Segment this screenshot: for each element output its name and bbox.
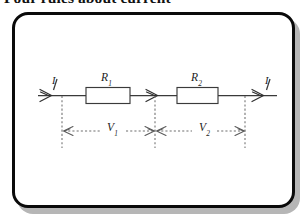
voltage-v2-label: V2 — [196, 122, 213, 136]
resistor-r1-symbol: R — [101, 71, 108, 83]
voltage-v2-symbol: V — [199, 121, 206, 133]
voltage-v1-label: V1 — [104, 122, 121, 136]
series-circuit-diagram — [0, 0, 306, 218]
resistor-r1-body — [86, 88, 130, 104]
resistor-r2-subscript: 2 — [198, 79, 202, 88]
resistor-r1-label: R1 — [101, 72, 112, 86]
current-label-right: I — [265, 76, 269, 87]
resistor-r2-label: R2 — [191, 72, 202, 86]
voltage-v1-symbol: V — [107, 121, 114, 133]
resistor-r2-symbol: R — [191, 71, 198, 83]
dimension-arrowhead-v1-end — [145, 127, 155, 136]
resistor-r1-subscript: 1 — [108, 79, 112, 88]
voltage-v1-subscript: 1 — [114, 129, 118, 138]
resistor-r2-body — [177, 88, 218, 104]
current-label-left: I — [52, 76, 56, 87]
voltage-v2-subscript: 2 — [206, 129, 210, 138]
